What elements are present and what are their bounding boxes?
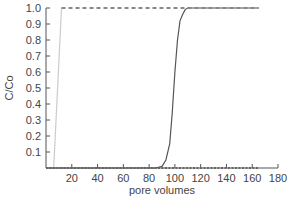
y-tick-label: 0.8 — [26, 34, 41, 46]
x-tick-label: 20 — [66, 172, 78, 184]
series-line-0 — [46, 8, 259, 168]
series-line-1 — [54, 8, 62, 168]
y-tick-label: 0.3 — [26, 114, 41, 126]
series-group — [46, 8, 259, 168]
x-tick-label: 120 — [191, 172, 209, 184]
x-tick-label: 80 — [143, 172, 155, 184]
axes: 0.10.20.30.40.50.60.70.80.91.02040608010… — [26, 2, 287, 184]
y-tick-label: 0.1 — [26, 146, 41, 158]
y-tick-label: 0.9 — [26, 18, 41, 30]
y-tick-label: 0.4 — [26, 98, 41, 110]
y-tick-label: 0.2 — [26, 130, 41, 142]
x-tick-label: 100 — [166, 172, 184, 184]
x-tick-label: 40 — [91, 172, 103, 184]
y-tick-label: 1.0 — [26, 2, 41, 14]
y-tick-label: 0.6 — [26, 66, 41, 78]
x-tick-label: 160 — [243, 172, 261, 184]
x-tick-label: 60 — [117, 172, 129, 184]
x-axis-label: pore volumes — [129, 184, 196, 196]
y-tick-label: 0.5 — [26, 82, 41, 94]
y-tick-label: 0.7 — [26, 50, 41, 62]
y-axis-label: C/Co — [3, 75, 15, 100]
x-tick-label: 140 — [217, 172, 235, 184]
x-tick-label: 180 — [269, 172, 287, 184]
breakthrough-chart: 0.10.20.30.40.50.60.70.80.91.02040608010… — [0, 0, 290, 208]
